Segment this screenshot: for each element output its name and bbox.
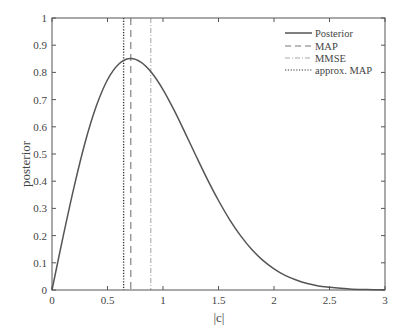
posterior-chart: 00.511.522.5300.10.20.30.40.50.60.70.80.… [0, 0, 408, 333]
y-tick-label: 0.9 [33, 39, 47, 51]
y-tick-label: 0.6 [33, 121, 47, 133]
y-tick-label: 0.8 [33, 66, 47, 78]
y-tick-label: 0.2 [33, 230, 47, 242]
y-tick-label: 0.4 [33, 175, 47, 187]
legend-item: approx. MAP [285, 65, 372, 76]
x-tick-label: 2.5 [323, 294, 337, 306]
legend-label: Posterior [315, 28, 353, 39]
x-tick-label: 3 [382, 294, 388, 306]
y-axis-label: posterior [18, 140, 33, 187]
x-tick-label: 1.5 [212, 294, 226, 306]
legend-label: MAP [315, 41, 338, 52]
x-tick-label: 0 [49, 294, 55, 306]
y-tick-label: 0.1 [33, 257, 47, 269]
legend-label: approx. MAP [315, 65, 372, 76]
legend: PosteriorMAPMMSEapprox. MAP [285, 28, 372, 76]
y-tick-label: 0.3 [33, 202, 47, 214]
legend-item: MAP [285, 41, 338, 52]
x-tick-label: 0.5 [101, 294, 115, 306]
legend-item: Posterior [285, 28, 353, 39]
legend-label: MMSE [315, 53, 346, 64]
y-tick-label: 0 [42, 284, 48, 296]
y-tick-label: 0.7 [33, 94, 47, 106]
legend-item: MMSE [285, 53, 346, 64]
x-tick-label: 1 [160, 294, 166, 306]
y-tick-label: 1 [42, 12, 48, 24]
x-tick-label: 2 [271, 294, 277, 306]
y-tick-label: 0.5 [33, 148, 47, 160]
posterior-curve [52, 58, 385, 290]
x-axis-label: |c| [214, 310, 225, 325]
